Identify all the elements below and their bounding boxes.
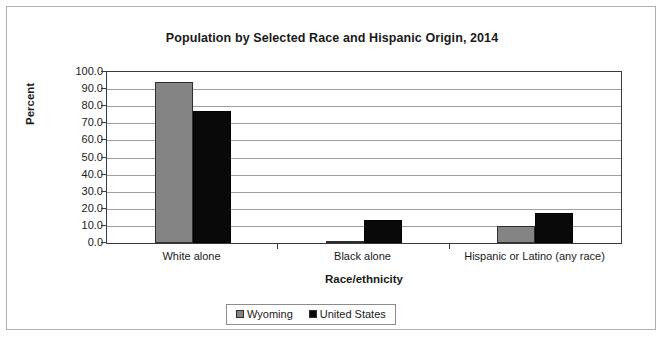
y-axis-tick-label: 50.0 [82, 151, 103, 163]
y-axis-tick-label: 10.0 [82, 219, 103, 231]
y-axis-tick-mark [101, 157, 106, 158]
y-axis-tick-label: 60.0 [82, 133, 103, 145]
y-axis-tick-label: 70.0 [82, 116, 103, 128]
chart-title: Population by Selected Race and Hispanic… [7, 31, 657, 45]
y-axis-tick-mark [101, 208, 106, 209]
x-axis-category-label: Black alone [277, 250, 448, 262]
y-axis-tick-mark [101, 88, 106, 89]
y-axis-tick-mark [101, 191, 106, 192]
x-axis-category-label: Hispanic or Latino (any race) [449, 250, 620, 262]
y-axis-tick-labels: 0.010.020.030.040.050.060.070.080.090.01… [51, 63, 103, 252]
y-axis-tick-mark [101, 71, 106, 72]
y-axis-tick-label: 80.0 [82, 99, 103, 111]
y-axis-tick-mark [101, 225, 106, 226]
y-axis-tick-mark [101, 105, 106, 106]
x-axis-title: Race/ethnicity [106, 273, 622, 285]
bar-united-states-hispanic-or-latino-any-race-[interactable] [535, 213, 573, 243]
y-axis-tick-mark [101, 139, 106, 140]
chart-frame: Population by Selected Race and Hispanic… [6, 6, 656, 330]
plot-area [106, 71, 622, 244]
y-axis-tick-label: 90.0 [82, 82, 103, 94]
legend-item-wyoming[interactable]: Wyoming [236, 308, 293, 320]
y-axis-tick-mark [101, 122, 106, 123]
y-axis-tick-label: 20.0 [82, 202, 103, 214]
x-axis-tick-mark [277, 244, 278, 249]
legend-item-label: Wyoming [247, 308, 293, 320]
bar-united-states-white-alone[interactable] [193, 111, 231, 243]
legend-swatch-icon [309, 310, 317, 318]
y-axis-tick-label: 40.0 [82, 168, 103, 180]
y-axis-tick-mark [101, 242, 106, 243]
legend-item-label: United States [320, 308, 386, 320]
bar-wyoming-hispanic-or-latino-any-race-[interactable] [497, 226, 535, 243]
x-axis-tick-mark [449, 244, 450, 249]
bar-wyoming-white-alone[interactable] [155, 82, 193, 243]
y-axis-tick-label: 30.0 [82, 185, 103, 197]
chart-legend: WyomingUnited States [226, 304, 396, 325]
bar-wyoming-black-alone[interactable] [326, 241, 364, 243]
legend-swatch-icon [236, 310, 244, 318]
y-axis-tick-label: 100.0 [75, 65, 103, 77]
bar-united-states-black-alone[interactable] [364, 220, 402, 243]
y-axis-title: Percent [24, 83, 36, 125]
y-axis-tick-mark [101, 174, 106, 175]
x-axis-category-label: White alone [106, 250, 277, 262]
legend-item-united-states[interactable]: United States [309, 308, 386, 320]
